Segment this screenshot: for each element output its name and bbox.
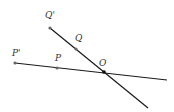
label-q-prime: Q' [45,10,55,20]
point-p-prime [13,61,16,64]
label-o: O [99,58,107,68]
point-q-prime [48,26,51,29]
point-p [55,66,58,69]
point-o [102,70,106,74]
point-q [74,47,77,50]
label-p: P [54,53,62,63]
geometry-diagram: Q' Q P' P O [0,0,174,112]
line-p-prime-through-o [15,63,167,80]
label-q: Q [75,33,83,43]
label-p-prime: P' [11,48,21,58]
